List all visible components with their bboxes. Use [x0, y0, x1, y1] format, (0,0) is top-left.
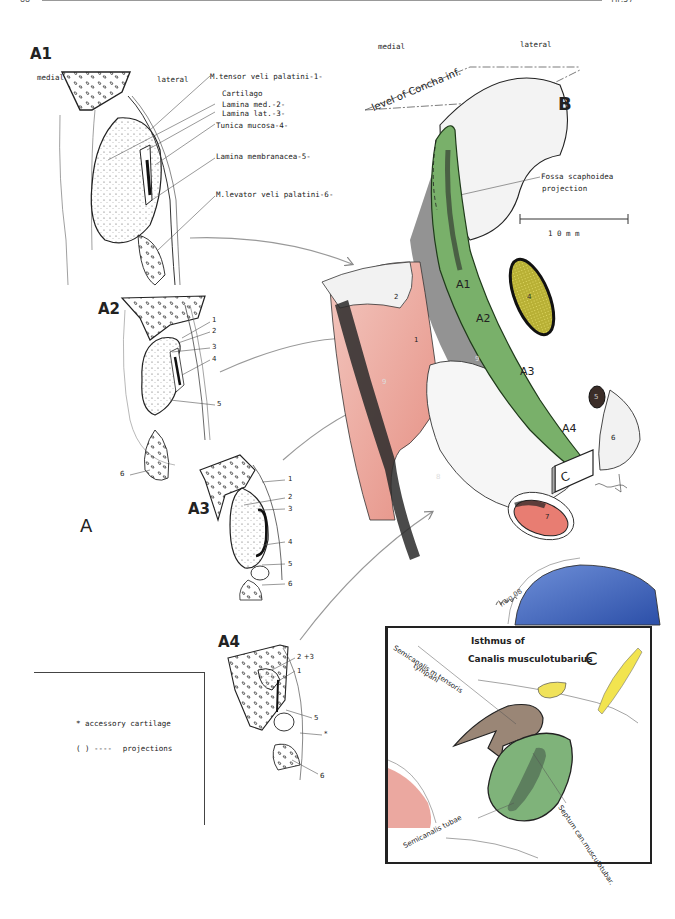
b-medial-label: medial	[378, 42, 405, 51]
a2-num-5: 5	[217, 400, 221, 408]
b-structure-1: 1	[414, 336, 418, 344]
legend-text-accessory: accessory cartilage	[85, 719, 171, 728]
a1-medial-label: medial	[37, 73, 64, 82]
a3-num-4: 4	[288, 538, 292, 546]
legend-projections: ( ) ---- projections	[76, 744, 172, 753]
b-lateral-label: lateral	[520, 40, 552, 49]
a3-label: A3	[188, 500, 210, 518]
b-section-a1: A1	[456, 278, 471, 291]
b-structure-4: 4	[527, 293, 531, 301]
b-structure-9b: 9	[382, 378, 386, 386]
b-structure-6: 6	[611, 434, 615, 442]
a2-num-2: 2	[212, 327, 216, 335]
b-structure-2: 2	[394, 293, 398, 301]
a1-drawing	[60, 72, 215, 285]
panel-b-letter: B	[558, 93, 572, 114]
a3-num-1: 1	[288, 475, 292, 483]
a1-label-tensor: M.tensor veli palatini-1-	[210, 72, 323, 81]
a2-label: A2	[98, 300, 120, 318]
c-title-line2: Canalis musculotubarius	[468, 654, 592, 664]
b-structure-9a: 9	[475, 355, 479, 363]
panel-b-drawing	[322, 67, 660, 625]
panel-a-letter: A	[80, 515, 92, 536]
b-fossa-projection-label: projection	[542, 184, 587, 193]
a4-num-2-3: 2 +3	[297, 653, 314, 661]
a2-num-6: 6	[120, 470, 124, 478]
b-structure-8: 8	[436, 473, 440, 481]
a1-label: A1	[30, 45, 52, 63]
a4-num-6: 6	[320, 772, 324, 780]
legend-symbol-projection: ( ) ----	[76, 744, 112, 753]
panel-c-box: Isthmus of Canalis musculotubarius C Sem…	[385, 626, 652, 864]
a1-label-cartilago: Cartilago	[222, 89, 263, 98]
legend-symbol-asterisk: *	[76, 719, 81, 728]
a2-drawing	[122, 296, 210, 480]
a1-label-lamina-lat: Lamina lat.-3-	[222, 109, 285, 118]
legend-accessory: * accessory cartilage	[76, 719, 171, 728]
a1-label-levator: M.levator veli palatini-6-	[216, 190, 333, 199]
a2-num-3: 3	[212, 343, 216, 351]
a2-num-4: 4	[212, 355, 216, 363]
a4-num-5: 5	[314, 714, 318, 722]
b-section-a2: A2	[476, 312, 491, 325]
panel-c-letter: C	[585, 648, 598, 669]
a3-num-5: 5	[288, 560, 292, 568]
a2-num-1: 1	[212, 316, 216, 324]
b-structure-5: 5	[594, 393, 598, 401]
b-section-a4: A4	[562, 422, 577, 435]
legend-box: * accessory cartilage ( ) ---- projectio…	[34, 672, 205, 825]
c-title-line1: Isthmus of	[471, 636, 525, 646]
a1-label-lamina-membranacea: Lamina membranacea-5-	[216, 152, 311, 161]
a3-num-6: 6	[288, 580, 292, 588]
a4-label: A4	[218, 633, 240, 651]
legend-text-projections: projections	[123, 744, 173, 753]
b-section-a3: A3	[520, 365, 535, 378]
a4-drawing	[228, 645, 303, 780]
a1-label-lamina-med: Lamina med.-2-	[222, 100, 285, 109]
b-scale-bar-label: 1 0 m m	[548, 229, 580, 238]
b-fossa-label: Fossa scaphoidea	[541, 172, 613, 181]
a3-drawing	[200, 455, 282, 600]
a1-lateral-label: lateral	[157, 75, 189, 84]
a3-num-2: 2	[288, 493, 292, 501]
a4-num-accessory: *	[324, 730, 328, 738]
a4-num-1: 1	[297, 667, 301, 675]
a1-label-tunica-mucosa: Tunica mucosa-4-	[216, 121, 288, 130]
a3-num-3: 3	[288, 505, 292, 513]
b-structure-7: 7	[545, 513, 549, 521]
